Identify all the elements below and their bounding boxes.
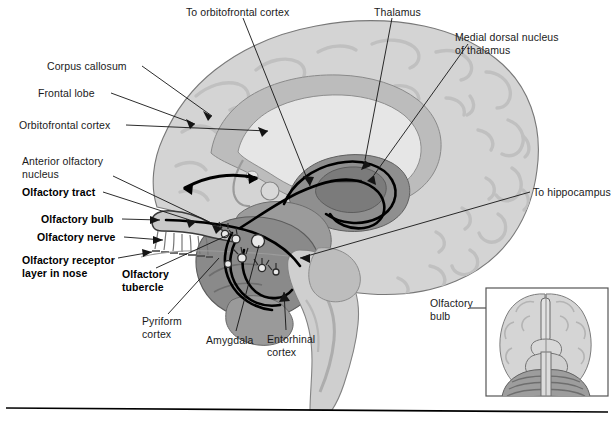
label-olfactory-tract: Olfactory tract [22, 186, 95, 199]
label-pyriform-cortex: Pyriform cortex [142, 315, 182, 340]
ventral-brain-inset [486, 288, 608, 416]
label-orbitofrontal-cortex: Orbitofrontal cortex [19, 119, 110, 132]
label-entorhinal-cortex: Entorhinal cortex [267, 333, 315, 358]
label-thalamus: Thalamus [374, 6, 421, 19]
label-olfactory-bulb: Olfactory bulb [41, 213, 114, 226]
label-olfactory-receptor-layer-in-nose: Olfactory receptor layer in nose [22, 254, 115, 279]
label-olfactory-tubercle: Olfactory tubercle [122, 268, 169, 293]
label-corpus-callosum: Corpus callosum [47, 60, 127, 73]
label-olfactory-nerve: Olfactory nerve [37, 231, 116, 244]
label-frontal-lobe: Frontal lobe [38, 87, 95, 100]
label-amygdala: Amygdala [206, 334, 254, 347]
label-anterior-olfactory-nucleus: Anterior olfactory nucleus [22, 155, 103, 180]
label-inset-olfactory-bulb: Olfactory bulb [430, 297, 473, 322]
label-to-orbitofrontal-cortex: To orbitofrontal cortex [186, 6, 289, 19]
olfactory-pathways-figure: To orbitofrontal cortex Thalamus Medial … [0, 0, 614, 430]
label-medial-dorsal-nucleus-of-thalamus: Medial dorsal nucleus of thalamus [455, 31, 559, 56]
label-to-hippocampus: To hippocampus [533, 186, 611, 199]
bottom-rule [6, 408, 608, 412]
